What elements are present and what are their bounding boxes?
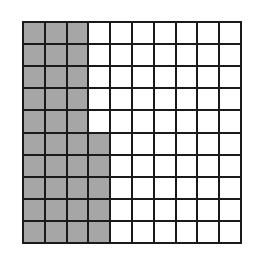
shaded-cell [24,156,44,176]
unshaded-cell [155,111,175,131]
unshaded-cell [111,178,131,198]
unshaded-cell [111,134,131,154]
unshaded-cell [198,156,218,176]
shaded-cell [89,222,109,242]
unshaded-cell [155,200,175,220]
unshaded-cell [133,89,153,109]
unshaded-cell [220,67,240,87]
unshaded-cell [111,200,131,220]
shaded-cell [46,23,66,43]
unshaded-cell [133,200,153,220]
unshaded-cell [198,222,218,242]
unshaded-cell [89,67,109,87]
unshaded-cell [133,134,153,154]
unshaded-cell [220,178,240,198]
unshaded-cell [198,45,218,65]
unshaded-cell [198,178,218,198]
unshaded-cell [198,67,218,87]
unshaded-cell [177,156,197,176]
unshaded-cell [198,111,218,131]
unshaded-cell [198,23,218,43]
unshaded-cell [155,134,175,154]
shaded-cell [46,222,66,242]
shaded-cell [68,111,88,131]
shaded-cell [46,111,66,131]
unshaded-cell [155,67,175,87]
shaded-cell [46,89,66,109]
unshaded-cell [155,156,175,176]
unshaded-cell [198,200,218,220]
shaded-cell [68,89,88,109]
shaded-cell [46,134,66,154]
shaded-cell [24,23,44,43]
unshaded-cell [177,111,197,131]
unshaded-cell [220,156,240,176]
unshaded-cell [155,222,175,242]
unshaded-cell [220,111,240,131]
unshaded-cell [220,222,240,242]
shaded-cell [68,45,88,65]
unshaded-cell [177,67,197,87]
shaded-cell [68,178,88,198]
unshaded-cell [177,134,197,154]
shaded-cell [24,67,44,87]
unshaded-cell [89,45,109,65]
shaded-cell [89,178,109,198]
unshaded-cell [111,156,131,176]
unshaded-cell [155,45,175,65]
unshaded-cell [198,134,218,154]
unshaded-cell [111,222,131,242]
unshaded-cell [111,89,131,109]
shaded-cell [68,134,88,154]
shaded-cell [24,45,44,65]
unshaded-cell [133,67,153,87]
unshaded-cell [177,222,197,242]
shaded-cell [68,23,88,43]
unshaded-cell [220,23,240,43]
unshaded-cell [198,89,218,109]
unshaded-cell [220,45,240,65]
unshaded-cell [111,111,131,131]
shaded-cell [89,200,109,220]
shaded-cell [24,200,44,220]
shaded-cell [68,200,88,220]
shaded-cell [46,200,66,220]
unshaded-cell [133,156,153,176]
shaded-cell [89,134,109,154]
shaded-cell [24,178,44,198]
shaded-cell [89,156,109,176]
unshaded-cell [111,67,131,87]
unshaded-cell [220,89,240,109]
unshaded-cell [177,23,197,43]
unshaded-cell [155,89,175,109]
shaded-cell [24,89,44,109]
unshaded-cell [133,178,153,198]
shaded-cell [46,67,66,87]
unshaded-cell [133,222,153,242]
shaded-cell [24,134,44,154]
unshaded-cell [177,178,197,198]
unshaded-cell [133,111,153,131]
unshaded-cell [111,23,131,43]
unshaded-cell [177,45,197,65]
shaded-cell [68,222,88,242]
shaded-cell [68,156,88,176]
unshaded-cell [111,45,131,65]
unshaded-cell [155,23,175,43]
shaded-cell [46,178,66,198]
shaded-cell [46,156,66,176]
unshaded-cell [155,178,175,198]
unshaded-cell [133,23,153,43]
unshaded-cell [220,134,240,154]
unshaded-cell [89,111,109,131]
shaded-cell [24,111,44,131]
unshaded-cell [177,200,197,220]
shaded-cell [68,67,88,87]
shaded-cell [24,222,44,242]
unshaded-cell [177,89,197,109]
unshaded-cell [89,89,109,109]
unshaded-cell [89,23,109,43]
shaded-cell [46,45,66,65]
hundred-grid [22,21,242,244]
unshaded-cell [220,200,240,220]
